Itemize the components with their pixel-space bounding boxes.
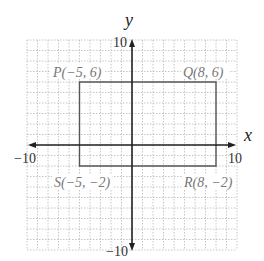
x-max-tick-label: 10 <box>228 151 242 166</box>
vertex-labels: P(−5, 6) Q(8, 6) R(8, −2) S(−5, −2) <box>51 64 236 191</box>
x-axis-left-arrow-icon <box>28 142 36 148</box>
vertex-label-q: Q(8, 6) <box>183 65 224 81</box>
y-min-tick-label: −10 <box>106 244 128 259</box>
vertex-label-s: S(−5, −2) <box>54 175 111 191</box>
x-axis-label: x <box>243 125 252 145</box>
vertex-label-p: P(−5, 6) <box>52 65 102 81</box>
y-axis-label: y <box>123 10 133 30</box>
x-axis-right-arrow-icon <box>228 142 236 148</box>
coordinate-plane: x y −10 10 10 −10 P(−5, 6) Q(8, 6) R(8, … <box>0 0 264 261</box>
vertex-label-r: R(8, −2) <box>183 175 233 191</box>
x-min-tick-label: −10 <box>14 151 36 166</box>
y-max-tick-label: 10 <box>113 35 127 50</box>
